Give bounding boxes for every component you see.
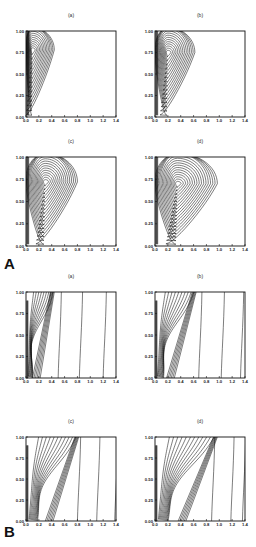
front-contour <box>39 292 54 378</box>
front-contour <box>32 292 50 378</box>
x-tick-label: 0.0 <box>152 522 158 527</box>
panel-title: (d) <box>197 418 203 424</box>
outer-contour <box>221 292 224 378</box>
panel-b-b: (b)0.00.20.40.60.81.01.21.40.000.250.500… <box>145 273 249 384</box>
y-tick-label: 0.25 <box>16 93 25 98</box>
y-tick-label: 1.00 <box>145 435 154 440</box>
outer-contour <box>58 292 61 378</box>
x-tick-label: 0.4 <box>178 522 184 527</box>
y-tick-label: 1.00 <box>145 29 154 34</box>
y-tick-label: 0.50 <box>16 333 25 338</box>
panel-b-a: (a)0.00.20.40.60.81.01.21.40.000.250.500… <box>16 273 120 384</box>
contour-lines <box>26 28 54 116</box>
x-tick-label: 0.8 <box>75 379 81 384</box>
x-tick-label: 1.2 <box>100 118 106 123</box>
x-tick-label: 0.2 <box>36 118 42 123</box>
outer-contour <box>79 292 82 378</box>
y-tick-label: 0.00 <box>145 519 154 524</box>
y-tick-label: 1.00 <box>16 155 25 160</box>
x-tick-label: 0.6 <box>191 118 197 123</box>
x-tick-label: 1.2 <box>100 247 106 252</box>
panel-title: (a) <box>68 12 74 18</box>
x-tick-label: 0.2 <box>165 118 171 123</box>
x-tick-label: 1.2 <box>229 522 235 527</box>
x-tick-label: 0.8 <box>75 247 81 252</box>
y-tick-label: 0.75 <box>145 456 154 461</box>
panel-title: (d) <box>197 138 203 144</box>
panel-title: (a) <box>68 273 74 279</box>
panel-b-c: (c)0.00.20.40.60.81.01.21.40.000.250.500… <box>16 418 120 527</box>
x-tick-label: 0.0 <box>23 522 29 527</box>
contour-lines <box>155 28 195 116</box>
y-tick-label: 0.50 <box>16 199 25 204</box>
x-tick-label: 0.8 <box>75 522 81 527</box>
x-tick-label: 0.6 <box>62 247 68 252</box>
x-tick-label: 1.0 <box>216 247 222 252</box>
x-tick-label: 1.4 <box>242 118 248 123</box>
y-tick-label: 0.00 <box>145 115 154 120</box>
y-tick-label: 1.00 <box>145 290 154 295</box>
contour-lines <box>26 153 77 244</box>
panel-title: (c) <box>68 418 74 424</box>
x-tick-label: 1.4 <box>113 522 119 527</box>
front-contour <box>178 437 213 521</box>
group-label-a: A <box>4 255 15 272</box>
front-contour <box>47 437 76 521</box>
x-tick-label: 0.2 <box>165 522 171 527</box>
x-tick-label: 1.0 <box>87 247 93 252</box>
contour-level <box>39 170 57 201</box>
y-tick-label: 0.50 <box>16 477 25 482</box>
y-tick-label: 0.00 <box>16 519 25 524</box>
y-tick-label: 0.75 <box>16 456 25 461</box>
x-tick-label: 1.4 <box>113 118 119 123</box>
x-tick-label: 0.8 <box>204 379 210 384</box>
x-tick-label: 0.2 <box>165 379 171 384</box>
panel-b-d: (d)0.00.20.40.60.81.01.21.40.000.250.500… <box>145 418 249 527</box>
contour-level <box>31 48 35 55</box>
y-tick-label: 0.75 <box>145 177 154 182</box>
outer-contour <box>97 437 100 521</box>
contour-level <box>35 437 65 520</box>
contour-lines <box>27 292 107 378</box>
front-contour <box>181 437 215 521</box>
front-contour <box>45 437 75 521</box>
x-tick-label: 1.0 <box>87 118 93 123</box>
x-tick-label: 1.4 <box>113 247 119 252</box>
x-tick-label: 0.4 <box>178 118 184 123</box>
contour-level <box>43 180 48 186</box>
x-tick-label: 0.6 <box>191 522 197 527</box>
x-tick-label: 0.4 <box>49 379 55 384</box>
y-tick-label: 0.75 <box>16 177 25 182</box>
contour-level <box>159 292 172 377</box>
front-contour <box>50 437 77 521</box>
x-tick-label: 0.4 <box>178 379 184 384</box>
y-tick-label: 0.25 <box>145 221 154 226</box>
x-tick-label: 0.8 <box>204 118 210 123</box>
y-tick-label: 1.00 <box>145 155 154 160</box>
x-tick-label: 1.2 <box>229 379 235 384</box>
x-tick-label: 0.0 <box>23 247 29 252</box>
front-contour <box>167 292 193 378</box>
x-tick-label: 0.6 <box>62 379 68 384</box>
x-tick-label: 0.2 <box>36 522 42 527</box>
x-tick-label: 0.2 <box>165 247 171 252</box>
contour-level <box>42 177 50 189</box>
panel-a-b: (b)0.00.20.40.60.81.01.21.40.000.250.500… <box>145 12 249 123</box>
y-tick-label: 0.50 <box>145 199 154 204</box>
y-tick-label: 0.75 <box>16 311 25 316</box>
x-tick-label: 0.8 <box>204 247 210 252</box>
outer-contour <box>241 292 244 378</box>
contour-figure: A B (a)0.00.20.40.60.81.01.21.40.000.250… <box>0 0 256 547</box>
y-tick-label: 0.25 <box>16 498 25 503</box>
x-tick-label: 1.2 <box>100 379 106 384</box>
outer-contour <box>199 292 202 378</box>
group-label-b: B <box>4 523 15 540</box>
y-tick-label: 0.75 <box>145 311 154 316</box>
front-contour <box>168 292 193 378</box>
contour-level <box>176 181 182 187</box>
x-tick-label: 0.0 <box>152 247 158 252</box>
y-tick-label: 0.00 <box>145 244 154 249</box>
x-tick-label: 1.0 <box>87 522 93 527</box>
y-tick-label: 0.25 <box>145 93 154 98</box>
x-tick-label: 0.4 <box>49 118 55 123</box>
